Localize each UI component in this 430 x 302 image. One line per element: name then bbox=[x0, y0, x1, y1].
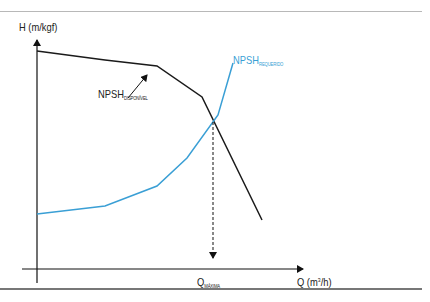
npsh-required-label: NPSHREQUERIDO bbox=[233, 54, 283, 67]
npsh-required-sub: REQUERIDO bbox=[259, 61, 283, 67]
npsh-available-sub: DISPONÍVEL bbox=[124, 95, 148, 101]
npsh-chart bbox=[0, 0, 430, 302]
y-axis-label-text: H (m/kgf) bbox=[19, 21, 57, 33]
x-axis-label-main: Q (m bbox=[297, 276, 318, 288]
y-axis-label: H (m/kgf) bbox=[19, 21, 57, 33]
q-max-label: QMÁXIMA bbox=[197, 276, 220, 289]
x-axis-label-tail: /h) bbox=[321, 276, 332, 288]
x-axis-label: Q (m3/h) bbox=[297, 276, 332, 288]
npsh-required-curve bbox=[37, 63, 233, 214]
q-max-main: Q bbox=[197, 276, 204, 288]
npsh-available-label: NPSHDISPONÍVEL bbox=[98, 88, 148, 101]
npsh-available-curve bbox=[37, 51, 262, 220]
npsh-available-main: NPSH bbox=[98, 88, 124, 100]
q-max-sub: MÁXIMA bbox=[204, 283, 220, 289]
npsh-required-main: NPSH bbox=[233, 54, 259, 66]
